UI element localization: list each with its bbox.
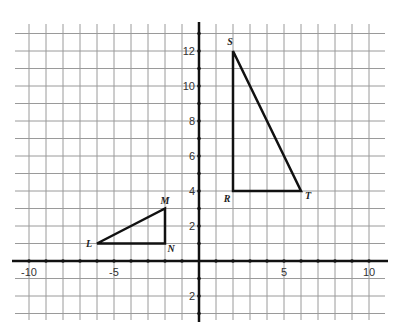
y-tick — [197, 277, 201, 281]
vertex-label-r: R — [223, 193, 231, 204]
vertex-label-n: N — [166, 243, 175, 254]
y-tick — [197, 154, 201, 158]
y-tick — [197, 172, 201, 176]
y-tick-label: 4 — [189, 185, 195, 197]
vertex-label-s: S — [227, 36, 233, 47]
y-tick — [197, 49, 201, 53]
y-tick — [197, 312, 201, 316]
x-tick-label: -10 — [21, 266, 37, 278]
y-tick-label: 10 — [183, 80, 195, 92]
y-tick — [197, 102, 201, 106]
x-tick — [112, 259, 116, 263]
x-tick-label: 5 — [281, 266, 287, 278]
y-tick-label: 2 — [189, 290, 195, 302]
y-tick — [197, 84, 201, 88]
x-tick — [146, 259, 150, 263]
vertex-label-l: L — [85, 238, 92, 249]
x-tick — [27, 259, 31, 263]
x-tick-label: 10 — [363, 266, 375, 278]
x-tick — [61, 259, 65, 263]
x-tick — [333, 259, 337, 263]
y-tick — [197, 32, 201, 36]
y-tick — [197, 207, 201, 211]
x-tick — [299, 259, 303, 263]
x-tick — [367, 259, 371, 263]
y-tick — [197, 294, 201, 298]
x-tick — [248, 259, 252, 263]
x-tick — [163, 259, 167, 263]
x-tick — [180, 259, 184, 263]
x-tick — [316, 259, 320, 263]
y-tick-label: 12 — [183, 45, 195, 57]
x-tick — [44, 259, 48, 263]
x-tick — [231, 259, 235, 263]
vertex-label-t: T — [305, 190, 312, 201]
y-tick — [197, 119, 201, 123]
x-tick-label: -5 — [109, 266, 119, 278]
y-tick — [197, 137, 201, 141]
x-tick — [95, 259, 99, 263]
x-tick — [265, 259, 269, 263]
axes — [12, 22, 388, 322]
y-tick — [197, 242, 201, 246]
x-tick — [282, 259, 286, 263]
y-tick — [197, 189, 201, 193]
y-tick-label: 6 — [189, 150, 195, 162]
vertex-label-m: M — [160, 195, 171, 206]
x-tick — [214, 259, 218, 263]
x-tick — [78, 259, 82, 263]
x-tick — [350, 259, 354, 263]
y-tick — [197, 67, 201, 71]
y-tick-label: 8 — [189, 115, 195, 127]
y-tick — [197, 224, 201, 228]
x-tick — [129, 259, 133, 263]
coordinate-plane: -10-5510121086422 LMNSRT — [0, 0, 399, 336]
y-tick-label: 2 — [189, 220, 195, 232]
